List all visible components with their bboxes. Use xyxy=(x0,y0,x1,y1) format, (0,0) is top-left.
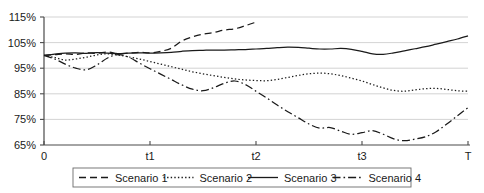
y-axis-tick-labels: 65%75%85%95%105%115% xyxy=(8,11,36,151)
series-line-2 xyxy=(44,54,468,91)
series-lines xyxy=(44,22,468,141)
y-tick-label: 105% xyxy=(8,37,36,49)
axes xyxy=(40,17,470,145)
y-tick-label: 85% xyxy=(14,88,36,100)
legend-label-1: Scenario 1 xyxy=(115,172,168,184)
x-tick-label: t1 xyxy=(145,150,154,162)
series-line-3 xyxy=(44,36,468,55)
x-axis-tick-labels: 0t1t2t3T xyxy=(41,150,472,162)
x-tick-label: 0 xyxy=(41,150,47,162)
chart-canvas: 65%75%85%95%105%115% 0t1t2t3T Scenario 1… xyxy=(0,0,484,193)
y-tick-label: 65% xyxy=(14,139,36,151)
chart-legend: Scenario 1Scenario 2Scenario 3Scenario 4 xyxy=(73,168,421,187)
legend-label-2: Scenario 2 xyxy=(200,172,253,184)
x-tick-label: t2 xyxy=(251,150,260,162)
x-tick-label: T xyxy=(465,150,472,162)
line-chart: 65%75%85%95%105%115% 0t1t2t3T Scenario 1… xyxy=(0,0,484,193)
x-tick-label: t3 xyxy=(357,150,366,162)
y-tick-label: 95% xyxy=(14,62,36,74)
y-tick-label: 75% xyxy=(14,113,36,125)
legend-label-4: Scenario 4 xyxy=(369,172,422,184)
y-tick-label: 115% xyxy=(9,11,37,23)
series-line-4 xyxy=(44,55,468,141)
legend-label-3: Scenario 3 xyxy=(284,172,337,184)
gridlines xyxy=(44,17,468,119)
